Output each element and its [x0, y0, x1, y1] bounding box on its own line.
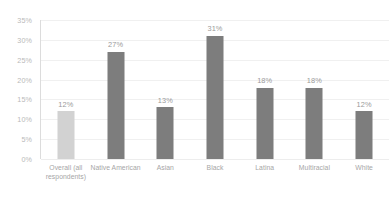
- bar-group: 27%: [91, 20, 141, 159]
- bar[interactable]: [206, 36, 223, 159]
- y-axis-tick-label: 35%: [17, 16, 32, 25]
- x-axis-tick-label: Overall (all respondents): [40, 163, 92, 181]
- x-axis-category-labels: Overall (all respondents)Native American…: [41, 163, 389, 203]
- bar[interactable]: [157, 107, 174, 159]
- bar-value-label: 12%: [357, 100, 372, 109]
- bar[interactable]: [256, 88, 273, 159]
- x-axis-tick-label: Asian: [139, 163, 191, 172]
- x-axis-tick-label: Black: [189, 163, 241, 172]
- bar-chart: 0%5%10%15%20%25%30%35% 12%27%13%31%18%18…: [0, 0, 391, 203]
- bar-value-label: 18%: [307, 76, 322, 85]
- y-axis: 0%5%10%15%20%25%30%35%: [0, 0, 36, 203]
- bar-group: 12%: [41, 20, 91, 159]
- y-axis-tick-label: 0%: [21, 155, 32, 164]
- bar[interactable]: [107, 52, 124, 159]
- bar-group: 13%: [140, 20, 190, 159]
- y-axis-tick-label: 5%: [21, 135, 32, 144]
- bar-group: 18%: [290, 20, 340, 159]
- axis-baseline: [41, 159, 389, 160]
- bar-value-label: 31%: [207, 24, 222, 33]
- bar-group: 12%: [339, 20, 389, 159]
- bar-group: 31%: [190, 20, 240, 159]
- plot-area: 12%27%13%31%18%18%12%: [41, 20, 389, 159]
- bar-group: 18%: [240, 20, 290, 159]
- bar[interactable]: [356, 111, 373, 159]
- bar[interactable]: [57, 111, 74, 159]
- y-axis-tick-label: 15%: [17, 95, 32, 104]
- bar-value-label: 18%: [257, 76, 272, 85]
- y-axis-tick-label: 20%: [17, 75, 32, 84]
- bar-value-label: 13%: [158, 96, 173, 105]
- bar-value-label: 12%: [58, 100, 73, 109]
- y-axis-tick-label: 10%: [17, 115, 32, 124]
- x-axis-tick-label: Latina: [239, 163, 291, 172]
- x-axis-tick-label: Native American: [90, 163, 142, 172]
- x-axis-tick-label: Multiracial: [288, 163, 340, 172]
- bar-value-label: 27%: [108, 40, 123, 49]
- bar[interactable]: [306, 88, 323, 159]
- y-axis-tick-label: 25%: [17, 55, 32, 64]
- x-axis-tick-label: White: [338, 163, 390, 172]
- y-axis-tick-label: 30%: [17, 35, 32, 44]
